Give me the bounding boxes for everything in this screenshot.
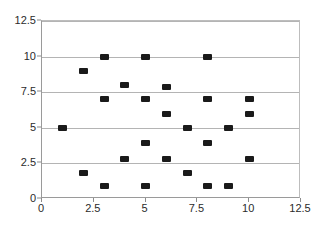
x-tick-label: 7.5	[189, 203, 204, 214]
x-tick-mark	[145, 198, 146, 202]
x-tick-mark	[196, 198, 197, 202]
x-tick-label: 5	[142, 203, 148, 214]
x-tick-label: 0	[38, 203, 44, 214]
x-tick-mark	[41, 198, 42, 202]
x-tick-mark	[93, 198, 94, 202]
x-tick-label: 2.5	[85, 203, 100, 214]
x-tick-label: 12.5	[289, 203, 310, 214]
x-tick-label: 10	[242, 203, 254, 214]
x-tick-mark	[300, 198, 301, 202]
scatter-chart: 02.557.51012.5 02.557.51012.5	[0, 0, 324, 232]
x-axis-labels: 02.557.51012.5	[0, 0, 324, 232]
x-tick-mark	[248, 198, 249, 202]
